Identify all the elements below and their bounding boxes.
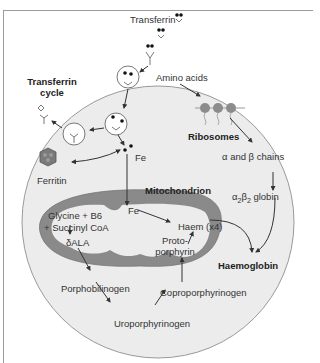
- label-protoporphyrin-line2: porphyrin: [150, 246, 200, 257]
- label-succinyl-coa: + Succinyl CoA: [44, 222, 109, 233]
- label-protoporphyrin-line1: Proto-: [150, 235, 200, 246]
- label-uroporphyrinogen: Uroporphyrinogen: [114, 318, 190, 329]
- label-mitochondrion: Mitochondrion: [145, 185, 211, 196]
- label-porphobilinogen: Porphobilinogen: [61, 283, 130, 294]
- label-globin: α2β2 globin: [232, 191, 279, 206]
- label-fe-cytoplasm: Fe: [135, 152, 146, 163]
- label-haem: Haem (x4): [178, 221, 222, 232]
- label-fe-mito: Fe: [128, 205, 139, 216]
- label-ribosomes: Ribosomes: [188, 131, 239, 142]
- label-coproporphyrinogen: Coproporphyrinogen: [160, 287, 247, 298]
- label-protoporphyrin: Proto- porphyrin: [150, 235, 200, 257]
- label-glycine-b6: Glycine + B6: [48, 210, 102, 221]
- label-transferrin-cycle-line1: Transferrin: [22, 76, 82, 87]
- label-alpha-beta-chains: α and β chains: [222, 151, 284, 162]
- label-delta-ala: δALA: [66, 237, 89, 248]
- label-haemoglobin: Haemoglobin: [218, 260, 278, 271]
- label-transferrin: Transferrin: [130, 14, 176, 25]
- label-transferrin-cycle: Transferrin cycle: [22, 76, 82, 98]
- label-transferrin-cycle-line2: cycle: [22, 87, 82, 98]
- ferritin-icon: [40, 148, 56, 166]
- globin-suffix: globin: [251, 191, 279, 202]
- label-ferritin: Ferritin: [37, 175, 67, 186]
- label-amino-acids: Amino acids: [156, 72, 208, 83]
